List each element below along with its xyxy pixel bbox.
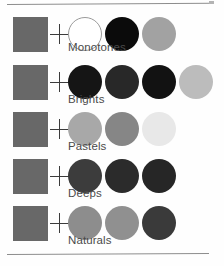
base-color-square [13,206,48,241]
swatch-dot [142,112,176,146]
swatch-dot [105,65,139,99]
swatch-row-label: Brights [68,93,105,105]
base-color-square [13,159,48,194]
plus-icon [50,213,70,233]
swatch-dot [142,206,176,240]
color-family-chart: MonotonesBrightsPastelsDeepsNaturals [0,0,224,266]
swatch-row: Deeps [0,159,224,203]
swatch-dot [142,159,176,193]
base-color-square [13,112,48,147]
swatch-row: Pastels [0,112,224,156]
swatch-row: Brights [0,65,224,109]
swatch-row-label: Monotones [68,41,126,53]
plus-icon [50,119,70,139]
plus-icon [50,72,70,92]
plus-icon [50,24,70,44]
top-divider-rule [7,3,212,5]
swatch-dot [142,65,176,99]
base-color-square [13,17,48,52]
corner-mark [209,1,214,4]
swatch-row: Naturals [0,206,224,250]
swatch-dot [105,159,139,193]
swatch-row: Monotones [0,17,224,61]
plus-icon [50,166,70,186]
swatch-dot [179,65,213,99]
swatch-dot [105,112,139,146]
swatch-row-label: Naturals [68,234,112,246]
swatch-row-label: Deeps [68,187,102,199]
base-color-square [13,65,48,100]
bottom-divider-rule [7,253,209,255]
swatch-dot [142,17,176,51]
swatch-row-label: Pastels [68,140,106,152]
